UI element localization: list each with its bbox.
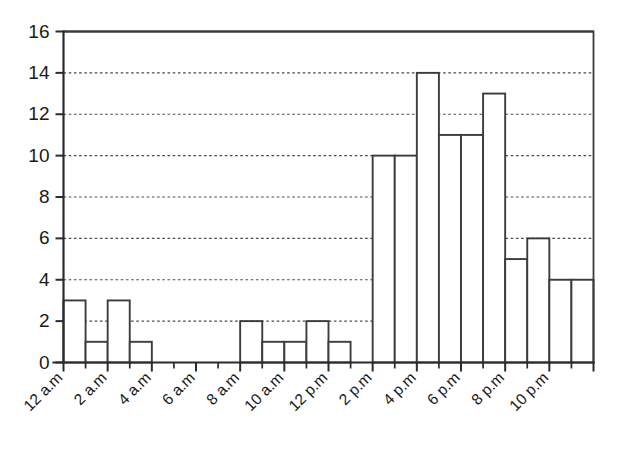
histogram-bar: [549, 280, 571, 363]
y-tick-label: 14: [28, 62, 50, 83]
histogram-bar: [64, 300, 86, 362]
y-tick-label: 4: [39, 269, 50, 290]
x-tick-label: 12 p.m: [285, 369, 331, 415]
histogram-bar: [373, 156, 395, 363]
y-tick-label: 2: [39, 310, 50, 331]
y-tick-label: 12: [28, 103, 49, 124]
x-tick-label: 10 p.m: [506, 369, 552, 415]
y-axis-labels-group: 0246810121416: [28, 21, 50, 373]
histogram-bar: [262, 342, 284, 363]
x-tick-label: 6 p.m: [424, 369, 463, 408]
histogram-bar: [86, 342, 108, 363]
histogram-bar: [417, 73, 439, 363]
bars-group: [64, 73, 594, 363]
histogram-bar: [439, 135, 461, 363]
histogram-bar: [108, 300, 130, 362]
histogram-bar: [395, 156, 417, 363]
x-tick-label: 4 p.m: [380, 369, 419, 408]
histogram-bar: [329, 342, 351, 363]
y-tick-label: 6: [39, 227, 50, 248]
x-tick-label: 10 a.m: [241, 369, 287, 415]
histogram-bar: [527, 238, 549, 362]
x-axis-labels-group: 12 a.m2 a.m4 a.m6 a.m8 a.m10 a.m12 p.m2 …: [20, 369, 551, 415]
x-tick-label: 12 a.m: [20, 369, 66, 415]
x-tick-label: 8 p.m: [468, 369, 507, 408]
histogram-bar: [505, 259, 527, 362]
x-tick-label: 6 a.m: [159, 369, 198, 408]
y-tick-label: 0: [39, 352, 50, 373]
histogram-bar: [571, 280, 593, 363]
histogram-chart: 0246810121416 12 a.m2 a.m4 a.m6 a.m8 a.m…: [0, 0, 624, 450]
y-tick-label: 8: [39, 186, 50, 207]
histogram-bar: [483, 94, 505, 363]
histogram-bar: [461, 135, 483, 363]
x-tick-label: 4 a.m: [115, 369, 154, 408]
histogram-bar: [306, 321, 328, 362]
y-tick-label: 10: [28, 145, 49, 166]
x-tick-label: 8 a.m: [203, 369, 242, 408]
histogram-bar: [284, 342, 306, 363]
y-tick-label: 16: [28, 21, 49, 42]
x-tick-label: 2 p.m: [335, 369, 374, 408]
histogram-bar: [130, 342, 152, 363]
y-tick-marks-group: [56, 32, 64, 363]
histogram-bar: [240, 321, 262, 362]
x-tick-label: 2 a.m: [70, 369, 109, 408]
chart-canvas: 0246810121416 12 a.m2 a.m4 a.m6 a.m8 a.m…: [0, 0, 624, 450]
